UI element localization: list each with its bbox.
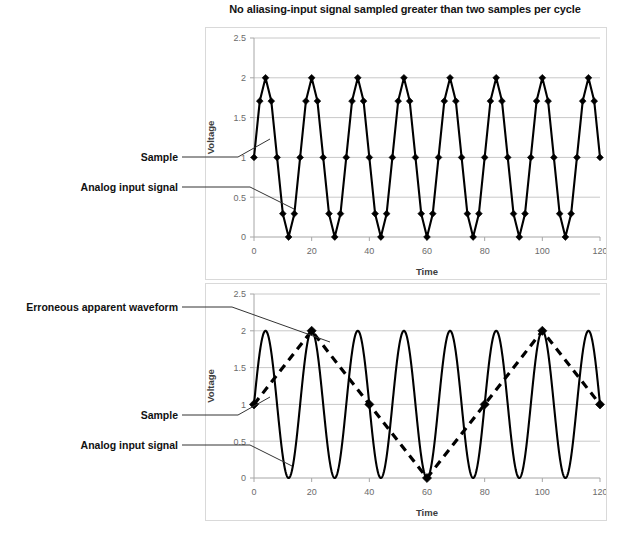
x-tick-label: 0	[251, 487, 256, 497]
sample-marker	[418, 210, 425, 217]
y-tick-label: 0.5	[233, 193, 246, 203]
y-tick-label: 2	[241, 326, 246, 336]
x-tick-label: 60	[422, 246, 432, 256]
sample-marker	[595, 400, 604, 409]
x-tick-label: 0	[251, 246, 256, 256]
x-tick-label: 80	[480, 487, 490, 497]
y-tick-label: 2.5	[233, 289, 246, 299]
sample-marker	[574, 154, 581, 161]
sample-marker	[401, 74, 408, 81]
figure-title: No aliasing-input signal sampled greater…	[195, 2, 615, 16]
sample-marker	[377, 234, 384, 241]
sample-marker	[326, 210, 333, 217]
sample-marker	[476, 210, 483, 217]
sample-marker	[597, 154, 604, 161]
sample-marker	[314, 98, 321, 105]
sample-marker	[337, 210, 344, 217]
sample-marker	[539, 74, 546, 81]
sample-marker	[499, 98, 506, 105]
annotation-top-analog-input-signal: Analog input signal	[10, 181, 178, 193]
x-tick-label: 120	[592, 246, 606, 256]
x-tick-label: 100	[535, 246, 550, 256]
x-axis-title: Time	[416, 266, 438, 277]
sample-marker	[389, 154, 396, 161]
sample-marker	[447, 74, 454, 81]
sample-marker	[452, 98, 459, 105]
sample-marker	[533, 98, 540, 105]
sample-marker	[435, 154, 442, 161]
sample-marker	[331, 234, 338, 241]
sample-marker	[493, 74, 500, 81]
sample-marker	[591, 98, 598, 105]
sample-marker	[412, 154, 419, 161]
sample-marker	[366, 154, 373, 161]
sample-marker	[481, 154, 488, 161]
x-tick-label: 60	[422, 487, 432, 497]
sample-marker	[470, 234, 477, 241]
top-chart-plot: 00.511.522.5020406080100120TimeVoltage	[206, 28, 606, 279]
annotation-bottom-erroneous-apparent-waveform: Erroneous apparent waveform	[4, 301, 178, 313]
sample-marker	[360, 98, 367, 105]
x-tick-label: 40	[364, 246, 374, 256]
annotation-top-sample: Sample	[60, 151, 178, 163]
y-axis-title: Voltage	[206, 121, 216, 155]
sample-marker	[527, 154, 534, 161]
y-tick-label: 1	[241, 400, 246, 410]
y-tick-label: 1.5	[233, 113, 246, 123]
sample-marker	[516, 234, 523, 241]
x-tick-label: 20	[307, 246, 317, 256]
sample-marker	[303, 98, 310, 105]
sample-marker	[308, 74, 315, 81]
sample-marker	[349, 98, 356, 105]
sample-marker	[522, 210, 529, 217]
sample-marker	[320, 154, 327, 161]
y-tick-label: 0	[241, 473, 246, 483]
bottom-chart-plot: 00.511.522.5020406080100120TimeVoltage	[206, 284, 606, 520]
sample-marker	[343, 154, 350, 161]
sample-marker	[251, 154, 258, 161]
x-tick-label: 20	[307, 487, 317, 497]
sample-marker	[585, 74, 592, 81]
annotation-bottom-analog-input-signal: Analog input signal	[10, 439, 178, 451]
x-axis-title: Time	[416, 507, 438, 518]
sample-marker	[556, 210, 563, 217]
y-axis-title: Voltage	[206, 369, 216, 403]
y-tick-label: 2	[241, 73, 246, 83]
sample-marker	[383, 210, 390, 217]
sample-marker	[297, 154, 304, 161]
sample-marker	[406, 98, 413, 105]
y-tick-label: 0.5	[233, 437, 246, 447]
sample-marker	[279, 210, 286, 217]
x-tick-label: 120	[592, 487, 606, 497]
x-tick-label: 40	[364, 487, 374, 497]
sample-marker	[372, 210, 379, 217]
sample-marker	[545, 98, 552, 105]
sample-marker	[550, 154, 557, 161]
sample-marker	[268, 98, 275, 105]
x-tick-label: 100	[535, 487, 550, 497]
y-tick-label: 1	[241, 153, 246, 163]
sample-marker	[291, 210, 298, 217]
sample-marker	[256, 98, 263, 105]
sample-marker	[274, 154, 281, 161]
sample-marker	[487, 98, 494, 105]
sample-marker	[424, 234, 431, 241]
sample-marker	[354, 74, 361, 81]
sample-marker	[285, 234, 292, 241]
sample-marker	[510, 210, 517, 217]
sample-marker	[262, 74, 269, 81]
chart-panel-bottom: 00.511.522.5020406080100120TimeVoltage	[205, 283, 607, 521]
figure-root: No aliasing-input signal sampled greater…	[0, 0, 617, 545]
sample-marker	[579, 98, 586, 105]
y-tick-label: 2.5	[233, 33, 246, 43]
sample-marker	[429, 210, 436, 217]
chart-panel-top: 00.511.522.5020406080100120TimeVoltage	[205, 27, 607, 280]
sample-marker	[464, 210, 471, 217]
sample-marker	[568, 210, 575, 217]
annotation-bottom-sample: Sample	[60, 409, 178, 421]
sample-marker	[504, 154, 511, 161]
sample-marker	[562, 234, 569, 241]
y-tick-label: 1.5	[233, 363, 246, 373]
sample-marker	[395, 98, 402, 105]
x-tick-label: 80	[480, 246, 490, 256]
